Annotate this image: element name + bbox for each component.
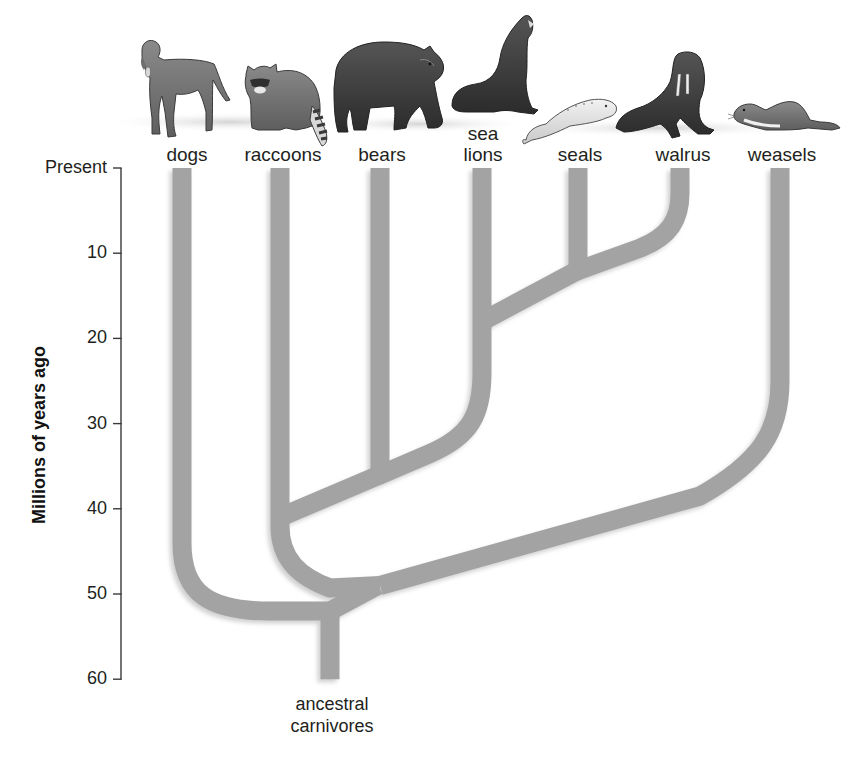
phylogenetic-tree <box>0 0 860 760</box>
tick-label-50: 50 <box>27 583 107 603</box>
branch-raccoon-bear-split <box>280 475 380 518</box>
phylogeny-figure: dogsraccoonsbearssea lionssealswalruswea… <box>0 0 860 760</box>
tick-label-present: Present <box>27 157 107 177</box>
axis-title: Millions of years ago <box>29 346 50 524</box>
branch-seal-walrus-split <box>482 270 578 321</box>
tick-label-60: 60 <box>27 668 107 688</box>
tick-label-10: 10 <box>27 242 107 262</box>
time-axis <box>113 168 122 679</box>
branch-walrus <box>576 168 680 271</box>
tick-label-20: 20 <box>27 327 107 347</box>
branch-raccoons-stem <box>280 168 380 588</box>
branch-sea-lions <box>378 168 482 476</box>
root-label-ancestral-carnivores: ancestral carnivores <box>290 693 373 737</box>
tree-branches <box>182 168 780 679</box>
branch-dogs <box>182 168 335 611</box>
